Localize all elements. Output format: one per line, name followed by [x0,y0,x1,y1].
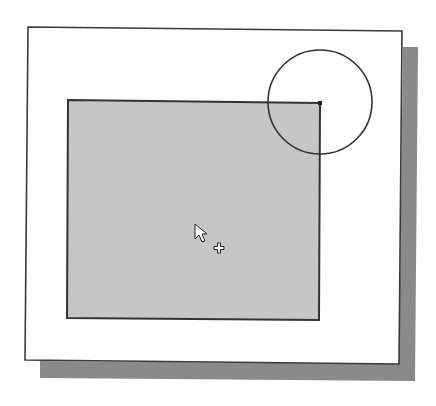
selected-rectangle[interactable] [67,100,320,320]
corner-point-marker[interactable] [318,101,322,105]
sketch-drawing [0,0,436,406]
figure-canvas [0,0,436,406]
